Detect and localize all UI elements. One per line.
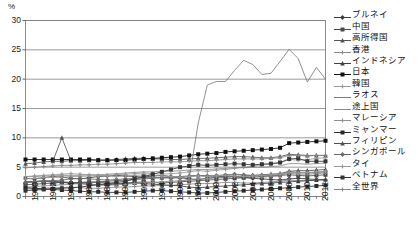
- legend-label: ミャンマー: [352, 124, 397, 135]
- legend-label: 香港: [352, 44, 370, 55]
- legend-item-4[interactable]: インドネシア: [333, 55, 418, 66]
- legend-marker-icon: [333, 55, 352, 66]
- series-5: [24, 139, 328, 162]
- legend-marker-icon: [333, 112, 352, 123]
- y-tick-label: 0: [1, 191, 21, 201]
- legend-item-6[interactable]: 韓国: [333, 78, 418, 89]
- x-tick-label: 2002: [230, 182, 240, 201]
- x-tick-label: 1980: [30, 182, 40, 201]
- x-tick-label: 1998: [193, 182, 203, 201]
- y-tick-label: 25: [1, 44, 21, 54]
- legend-item-1[interactable]: 中国: [333, 20, 418, 31]
- y-tick-label: 20: [1, 74, 21, 84]
- chart-legend: ブルネイ中国高所得国香港インドネシア日本韓国ラオス途上国マレーシアミャンマーフィ…: [333, 9, 418, 192]
- legend-label: 高所得国: [352, 32, 388, 43]
- legend-label: ブルネイ: [352, 9, 388, 20]
- legend-item-0[interactable]: ブルネイ: [333, 9, 418, 20]
- legend-label: マレーシア: [352, 112, 397, 123]
- x-tick-label: 1994: [157, 182, 167, 201]
- legend-item-7[interactable]: ラオス: [333, 89, 418, 100]
- legend-item-2[interactable]: 高所得国: [333, 32, 418, 43]
- x-tick-label: 1982: [48, 182, 58, 201]
- series-2: [23, 152, 328, 166]
- legend-marker-icon: [333, 78, 352, 89]
- y-tick-label: 5: [1, 162, 21, 172]
- legend-marker-icon: [333, 32, 352, 43]
- x-tick-label: 1996: [175, 182, 185, 201]
- legend-label: 韓国: [352, 78, 370, 89]
- x-tick-label: 2008: [284, 182, 294, 201]
- legend-item-5[interactable]: 日本: [333, 66, 418, 77]
- y-tick-label: 15: [1, 103, 21, 113]
- series-7: [180, 49, 325, 182]
- x-tick-label: 2000: [211, 182, 221, 201]
- legend-item-3[interactable]: 香港: [333, 43, 418, 54]
- legend-label: タイ: [352, 158, 370, 169]
- legend-marker-icon: [333, 135, 352, 146]
- x-tick-label: 2010: [302, 182, 312, 201]
- legend-marker-icon: [333, 44, 352, 55]
- legend-item-12[interactable]: シンガポール: [333, 146, 418, 157]
- spike-annotation: [53, 135, 71, 161]
- legend-marker-icon: [333, 9, 352, 20]
- legend-label: フィリピン: [352, 135, 397, 146]
- legend-marker-icon: [333, 124, 352, 135]
- legend-item-8[interactable]: 途上国: [333, 101, 418, 112]
- legend-item-11[interactable]: フィリピン: [333, 135, 418, 146]
- legend-label: 日本: [352, 66, 370, 77]
- y-tick-label: 10: [1, 132, 21, 142]
- x-tick-label: 2012: [320, 182, 330, 201]
- legend-label: 途上国: [352, 101, 379, 112]
- x-tick-label: 1984: [66, 182, 76, 201]
- legend-marker-icon: [333, 89, 352, 100]
- x-tick-label: 1986: [84, 182, 94, 201]
- x-tick-label: 2006: [266, 182, 276, 201]
- legend-item-10[interactable]: ミャンマー: [333, 123, 418, 134]
- legend-marker-icon: [333, 101, 352, 112]
- x-tick-label: 1988: [102, 182, 112, 201]
- y-tick-label: 30: [1, 15, 21, 25]
- legend-label: シンガポール: [352, 146, 406, 157]
- legend-marker-icon: [333, 146, 352, 157]
- data-series-group: [23, 49, 328, 195]
- legend-item-13[interactable]: タイ: [333, 158, 418, 169]
- x-tick-label: 2004: [248, 182, 258, 201]
- x-tick-label: 1992: [139, 182, 149, 201]
- x-tick-label: 1990: [120, 182, 130, 201]
- legend-item-15[interactable]: 全世界: [333, 181, 418, 192]
- chart-container: % ブルネイ中国高所得国香港インドネシア日本韓国ラオス途上国マレーシアミャンマー…: [0, 0, 418, 250]
- legend-marker-icon: [333, 158, 352, 169]
- legend-marker-icon: [333, 66, 352, 77]
- legend-label: ベトナム: [352, 169, 388, 180]
- legend-label: インドネシア: [352, 55, 406, 66]
- legend-label: ラオス: [352, 89, 379, 100]
- legend-marker-icon: [333, 169, 352, 180]
- legend-item-9[interactable]: マレーシア: [333, 112, 418, 123]
- legend-label: 中国: [352, 21, 370, 32]
- gridlines: [26, 21, 326, 197]
- legend-label: 全世界: [352, 181, 379, 192]
- legend-marker-icon: [333, 181, 352, 192]
- legend-marker-icon: [333, 21, 352, 32]
- legend-item-14[interactable]: ベトナム: [333, 169, 418, 180]
